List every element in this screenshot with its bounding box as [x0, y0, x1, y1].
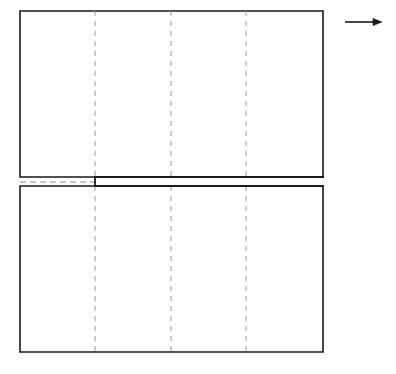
crack-slot — [95, 177, 323, 186]
load-direction-arrow — [345, 18, 382, 25]
cracked-plate-diagram — [0, 0, 396, 374]
diagram-canvas — [0, 0, 396, 374]
load-arrow-head — [373, 18, 382, 25]
